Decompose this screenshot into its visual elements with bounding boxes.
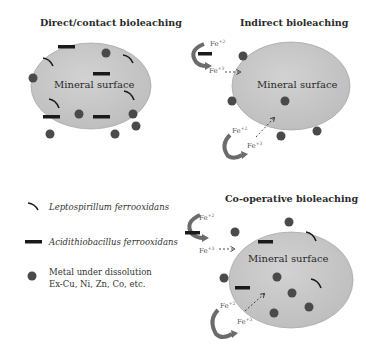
metal-dot-icon <box>277 132 286 141</box>
redox-cycle-arrow-icon <box>224 135 242 158</box>
metal-dot-icon <box>239 52 248 61</box>
arrowhead-icon <box>241 151 248 159</box>
legend-sublabel: Ex-Cu, Ni, Zn, Co, etc. <box>49 279 145 289</box>
metal-dot-icon <box>75 110 84 119</box>
metal-dot-icon <box>129 110 138 119</box>
metal-dot-icon <box>102 49 111 58</box>
fe3-label: Fe+3 <box>209 66 224 75</box>
fe3-label: Fe+3 <box>237 317 252 326</box>
rod-bacterium-icon <box>258 240 273 244</box>
metal-dot-icon <box>28 272 37 281</box>
indirect-title: Indirect bioleaching <box>240 17 349 28</box>
metal-dot-icon <box>29 74 38 83</box>
direct-title: Direct/contact bioleaching <box>40 17 182 28</box>
metal-dot-icon <box>132 122 141 131</box>
rod-bacterium-icon <box>25 240 42 244</box>
fe2-label: Fe+2 <box>232 126 247 135</box>
fe2-label: Fe+2 <box>210 39 225 48</box>
legend-label: Acidithiobacillus ferrooxidans <box>48 237 178 247</box>
arrowhead-icon <box>231 330 238 338</box>
metal-dot-icon <box>288 289 297 298</box>
fe3-label: Fe+3 <box>199 246 214 255</box>
legend-item-acidithiobacillus: Acidithiobacillus ferrooxidans <box>25 237 178 247</box>
fe2-label: Fe+2 <box>199 213 214 222</box>
rod-bacterium-icon <box>58 45 75 49</box>
cooperative-surface-label: Mineral surface <box>248 253 329 264</box>
metal-dot-icon <box>46 130 55 139</box>
metal-dot-icon <box>220 274 229 283</box>
metal-dot-icon <box>281 97 290 106</box>
legend-item-leptospirillum: Leptospirillum ferrooxidans <box>28 202 170 212</box>
rod-bacterium-icon <box>235 286 250 290</box>
metal-dot-icon <box>228 97 237 106</box>
fe2-label: Fe+2 <box>220 301 235 310</box>
panel-cooperative: Co-operative bioleaching Mineral surface… <box>185 193 358 338</box>
legend-item-metal: Metal under dissolution Ex-Cu, Ni, Zn, C… <box>28 267 153 289</box>
metal-dot-icon <box>285 218 294 227</box>
panel-indirect: Indirect bioleaching Mineral surface Fe+… <box>193 17 350 159</box>
metal-dot-icon <box>305 303 314 312</box>
rod-bacterium-icon <box>185 231 200 235</box>
cooperative-title: Co-operative bioleaching <box>225 193 358 204</box>
metal-dot-icon <box>273 273 282 282</box>
direct-surface-label: Mineral surface <box>54 79 135 90</box>
redox-cycle-arrow-icon <box>212 310 232 337</box>
legend: Leptospirillum ferrooxidans Acidithiobac… <box>25 202 178 289</box>
metal-dot-icon <box>270 309 279 318</box>
legend-label: Leptospirillum ferrooxidans <box>48 202 170 212</box>
rod-bacterium-icon <box>93 72 110 76</box>
rod-bacterium-icon <box>93 115 110 119</box>
rod-bacterium-icon <box>43 115 60 119</box>
legend-label: Metal under dissolution <box>49 267 152 277</box>
bioleaching-diagram: Direct/contact bioleaching Mineral surfa… <box>0 0 367 354</box>
indirect-surface-label: Mineral surface <box>257 79 338 90</box>
fe3-label: Fe+3 <box>247 141 262 150</box>
mineral-surface-cooperative <box>229 232 353 328</box>
panel-direct: Direct/contact bioleaching Mineral surfa… <box>29 17 183 139</box>
metal-dot-icon <box>231 228 240 237</box>
metal-dot-icon <box>111 130 120 139</box>
arrowhead-icon <box>202 234 209 242</box>
rod-bacterium-icon <box>198 52 212 56</box>
curved-bacterium-icon <box>28 203 38 210</box>
metal-dot-icon <box>313 127 322 136</box>
